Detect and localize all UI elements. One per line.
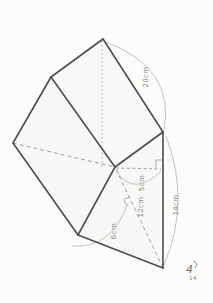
solid-figure-canvas: 20cm 14cm 5cm 12cm 6cm 4 14 — [0, 0, 213, 303]
signature-sub: 14 — [189, 275, 197, 281]
label-5cm: 5cm — [138, 175, 146, 191]
label-12cm: 12cm — [137, 196, 145, 217]
scanned-geometry-diagram: 20cm 14cm 5cm 12cm 6cm 4 14 — [0, 0, 213, 303]
label-14cm: 14cm — [172, 194, 180, 215]
label-20cm: 20cm — [142, 66, 150, 87]
label-6cm: 6cm — [110, 223, 118, 239]
